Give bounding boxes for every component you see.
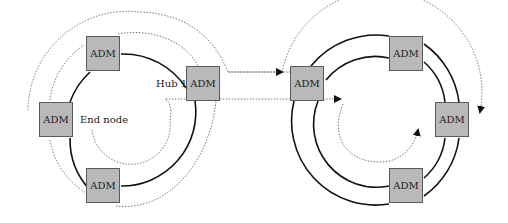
left-ring-adm-top: ADM: [86, 36, 120, 71]
left-ring-adm-left: ADM: [39, 102, 73, 137]
right-ring-adm-right: ADM: [435, 102, 469, 137]
left-ring-adm-hub1: ADM: [186, 66, 220, 101]
hub-1-label: Hub 1: [156, 78, 187, 89]
ring-network-diagram: ADM ADM ADM ADM Hub 1 End node ADM ADM A…: [0, 0, 508, 223]
right-ring-adm-top: ADM: [389, 36, 423, 71]
left-ring-adm-bottom: ADM: [86, 168, 120, 203]
right-ring-adm-left: ADM: [290, 66, 324, 101]
end-node-label: End node: [80, 114, 128, 125]
right-ring: [292, 35, 459, 205]
right-ring-adm-bottom: ADM: [389, 168, 423, 203]
diagram-lines: [0, 0, 508, 223]
